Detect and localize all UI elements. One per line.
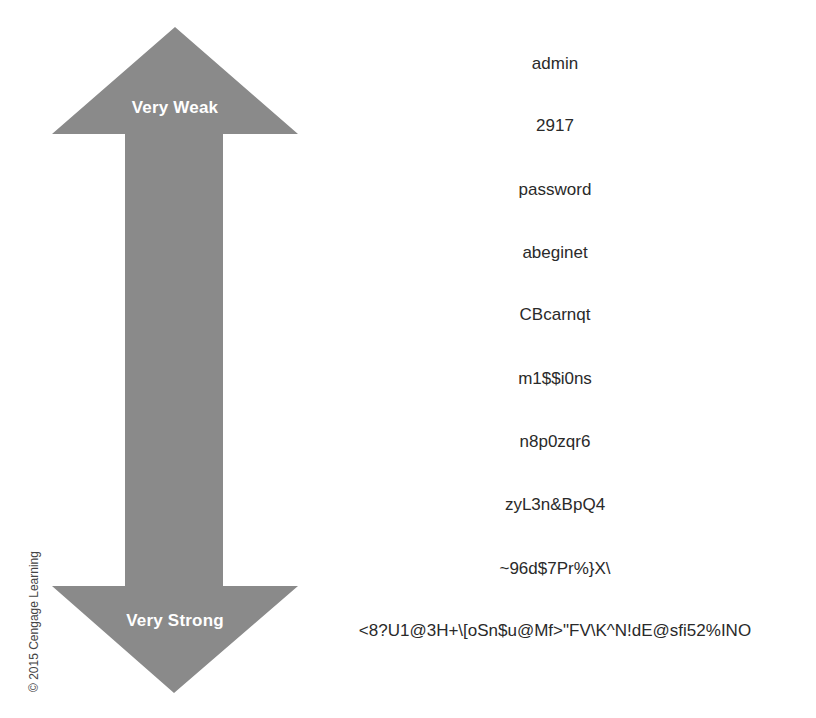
strength-arrow-shape (52, 27, 298, 693)
password-example: abeginet (300, 243, 810, 263)
password-example: CBcarnqt (300, 305, 810, 325)
password-example: zyL3n&BpQ4 (300, 495, 810, 515)
very-weak-label: Very Weak (50, 98, 300, 118)
password-example: 2917 (300, 116, 810, 136)
copyright-notice: © 2015 Cengage Learning (27, 551, 41, 692)
password-example: m1$$i0ns (300, 369, 810, 389)
very-strong-label: Very Strong (50, 611, 300, 631)
password-example: <8?U1@3H+\[oSn$u@Mf>"FV\K^N!dE@sfi52%INO (300, 621, 810, 641)
password-example: n8p0zqr6 (300, 432, 810, 452)
password-example: admin (300, 54, 810, 74)
password-example: password (300, 180, 810, 200)
password-examples-list: admin 2917 password abeginet CBcarnqt m1… (300, 0, 810, 718)
password-example: ~96d$7Pr%}X\ (300, 559, 810, 579)
